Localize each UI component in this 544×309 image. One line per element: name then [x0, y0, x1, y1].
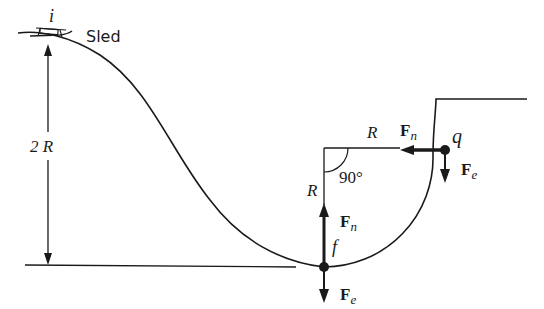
point-f-dot [319, 262, 329, 272]
point-f-label: f [332, 237, 340, 257]
point-q-forces [400, 145, 450, 183]
sled-diagram: 2 R i Sled R R 90° Fn f Fe Fn q Fe [0, 0, 544, 309]
point-q-dot [440, 145, 450, 155]
point-i-label: i [49, 6, 54, 26]
point-f-forces [319, 203, 329, 303]
angle-label: 90° [339, 168, 363, 187]
force-fn-q-label: Fn [400, 121, 417, 143]
force-fe-q-label: Fe [461, 160, 477, 182]
force-fn-f-label: Fn [340, 212, 357, 234]
force-fe-f-label: Fe [340, 285, 356, 307]
radius-vertical-label: R [306, 181, 318, 200]
ground-line [25, 265, 296, 267]
radius-horizontal-label: R [366, 123, 378, 142]
sled-label: Sled [86, 27, 121, 46]
height-dimension: 2 R [30, 44, 54, 265]
track-curve [18, 32, 527, 267]
height-label: 2 R [30, 137, 54, 156]
point-q-label: q [452, 125, 462, 148]
